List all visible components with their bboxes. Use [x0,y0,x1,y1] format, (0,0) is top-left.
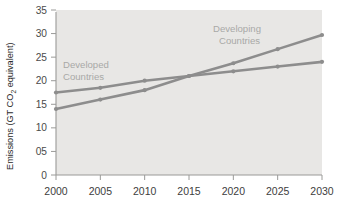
y-axis-title: Emissions (GT CO2 equivalent) [5,42,17,170]
x-tick-label: 2025 [266,185,290,197]
x-tick-label: 2020 [222,185,246,197]
data-point-marker [98,86,102,90]
y-tick-label: 15 [36,99,48,110]
x-tick-label: 2030 [310,185,334,197]
y-tick-label: 30 [36,28,48,39]
y-axis-title-after: equivalent) [5,42,15,90]
data-point-marker [54,107,58,111]
y-axis-title-before: Emissions (GT CO [5,94,15,170]
data-point-marker [98,97,102,101]
data-point-marker [54,90,58,94]
developing-label-line2: Countries [219,35,260,46]
y-tick-label: 25 [36,52,48,63]
data-point-marker [143,88,147,92]
x-tick-label: 2015 [177,185,201,197]
y-tick-label: 35 [36,5,48,16]
data-point-marker [320,33,324,37]
y-tick-label: 05 [36,146,48,157]
data-point-marker [231,69,235,73]
emissions-line-chart: 005101520253035 200020052010201520202025… [0,0,337,203]
data-point-marker [320,60,324,64]
data-point-marker [231,61,235,65]
y-tick-label: 20 [36,75,48,86]
developed-label-line1: Developed [63,59,109,70]
developing-label-line1: Developing [213,23,261,34]
plot-area-background [56,10,322,175]
data-point-marker [143,79,147,83]
x-tick-label: 2010 [133,185,157,197]
y-tick-label: 0 [41,170,47,181]
series-annotation-developed: Developed Countries [63,59,109,82]
data-point-marker [187,74,191,78]
chart-canvas: 005101520253035 200020052010201520202025… [0,0,337,203]
data-point-marker [276,64,280,68]
x-tick-label: 2005 [89,185,113,197]
x-tick-label: 2000 [44,185,68,197]
series-annotation-developing: Developing Countries [213,23,261,46]
developed-label-line2: Countries [63,71,104,82]
y-tick-label: 10 [36,122,48,133]
data-point-marker [276,47,280,51]
